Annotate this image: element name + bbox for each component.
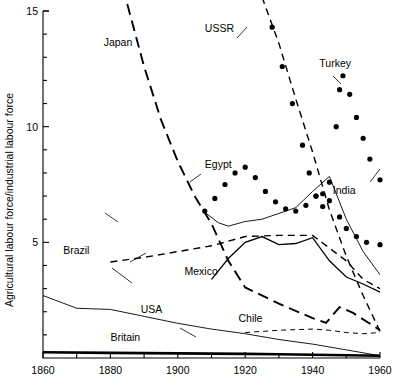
series-labels: JapanUSSRTurkeyEgyptIndiaBrazilMexicoUSA… [63,22,380,344]
data-point [293,209,298,214]
series-label-turkey: Turkey [319,57,351,69]
data-point [263,189,268,194]
label-leader-line [333,76,341,84]
series-chile [245,329,380,334]
data-point [361,136,366,141]
data-point [377,177,382,182]
x-tick-label: 1880 [99,364,123,376]
data-point [340,73,345,78]
data-point [337,87,342,92]
data-point [344,226,349,231]
data-point [327,198,332,203]
data-point [354,115,359,120]
data-point [320,204,325,209]
data-point [337,214,342,219]
series-layer [43,0,383,356]
series-label-chile: Chile [239,312,263,324]
data-point [273,199,278,204]
series-ussr [262,0,380,331]
series-label-egypt: Egypt [205,158,232,170]
label-leader-line [112,268,132,283]
series-mexico [212,237,381,293]
label-leader-line [190,174,201,182]
data-point [222,182,227,187]
series-label-brazil: Brazil [63,244,89,256]
data-point [313,193,318,198]
series-path [127,4,380,330]
series-turkey [259,0,382,209]
series-path [262,0,380,331]
label-leader-line [130,253,146,262]
data-point [303,203,308,208]
data-point [334,124,339,129]
label-leader-line [237,27,247,38]
data-point [307,170,312,175]
data-point [347,92,352,97]
series-label-ussr: USSR [205,22,235,34]
series-path [43,296,380,356]
x-tick-label: 1920 [234,364,258,376]
data-point [243,165,248,170]
data-point [202,209,207,214]
series-japan [127,4,380,330]
series-label-india: India [333,184,356,196]
data-point [300,143,305,148]
series-label-japan: Japan [104,36,133,48]
y-tick-label: 5 [32,236,38,248]
series-label-mexico: Mexico [185,265,218,277]
y-axis-title: Agricultural labour force/industrial lab… [3,93,15,307]
x-tick-label: 1940 [301,364,325,376]
label-leader-line [180,328,196,337]
data-point [280,64,285,69]
data-point [270,25,275,30]
series-path [245,329,380,334]
y-tick-label: 10 [26,121,38,133]
chart-container: 51015186018801900192019401960 JapanUSSRT… [0,0,399,389]
series-label-usa: USA [141,303,163,315]
series-usa [43,296,380,356]
x-tick-label: 1860 [31,364,55,376]
x-tick-label: 1960 [368,364,392,376]
data-point [367,156,372,161]
label-leader-line [105,213,118,222]
series-label-britain: Britain [110,331,140,343]
data-point [320,191,325,196]
series-brazil [110,235,380,288]
y-tick-label: 15 [26,5,38,17]
data-point [364,240,369,245]
series-path [212,237,381,293]
x-tick-label: 1900 [166,364,190,376]
data-point [377,242,382,247]
data-point [232,170,237,175]
series-path [110,235,380,288]
data-point [253,175,258,180]
line-chart: 51015186018801900192019401960 JapanUSSRT… [0,0,399,389]
data-point [290,101,295,106]
data-point [212,196,217,201]
